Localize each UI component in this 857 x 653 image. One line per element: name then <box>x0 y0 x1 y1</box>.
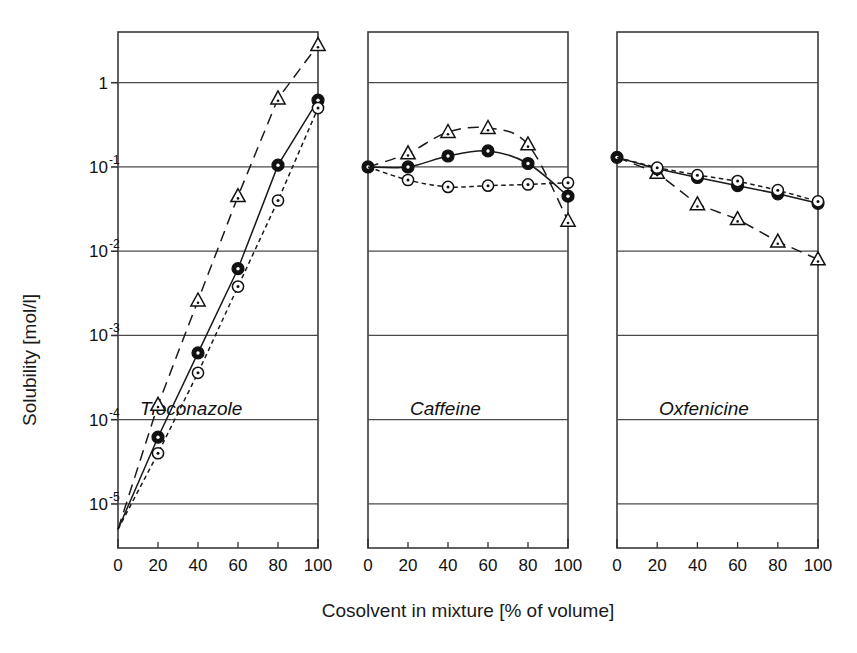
datapoint-marker <box>812 196 823 207</box>
series-series-filled-circle-caffeine <box>362 145 574 202</box>
ytick-label-mantissa: 10 <box>89 158 108 177</box>
datapoint-marker <box>152 448 163 459</box>
xtick-label-60: 60 <box>728 556 747 575</box>
datapoint-marker <box>811 252 825 265</box>
series-line-series-triangle <box>118 45 318 529</box>
series-line-series-filled-circle <box>368 151 568 197</box>
datapoint-marker <box>652 162 663 173</box>
datapoint-marker <box>482 145 494 157</box>
datapoint-marker <box>522 157 534 169</box>
circle-center-dot-icon <box>316 99 319 102</box>
datapoint-marker <box>152 431 164 443</box>
datapoint-marker <box>272 159 284 171</box>
circle-center-dot-icon <box>817 200 820 203</box>
series-series-triangle-tioconazole <box>118 38 325 530</box>
series-line-series-triangle <box>368 127 568 221</box>
datapoint-marker <box>611 151 623 163</box>
panel-frame <box>617 32 818 548</box>
datapoint-marker <box>442 150 454 162</box>
triangle-center-dot-icon <box>407 154 410 157</box>
triangle-center-dot-icon <box>237 197 240 200</box>
xtick-label-80: 80 <box>768 556 787 575</box>
xtick-label-20: 20 <box>648 556 667 575</box>
datapoint-marker <box>191 293 205 306</box>
panel-caffeine: 020406080100Caffeine <box>362 32 582 575</box>
datapoint-marker <box>772 185 783 196</box>
series-series-open-circle-caffeine <box>368 167 574 192</box>
circle-center-dot-icon <box>447 185 450 188</box>
datapoint-marker <box>771 234 785 247</box>
circle-center-dot-icon <box>237 285 240 288</box>
datapoint-marker <box>271 91 285 104</box>
panel-label-oxfenicine: Oxfenicine <box>659 398 749 419</box>
datapoint-marker <box>562 177 573 188</box>
xtick-label-0: 0 <box>363 556 372 575</box>
datapoint-marker <box>402 174 413 185</box>
xtick-label-60: 60 <box>229 556 248 575</box>
xtick-label-60: 60 <box>479 556 498 575</box>
triangle-center-dot-icon <box>157 406 160 409</box>
panel-oxfenicine: 020406080100Oxfenicine <box>611 32 832 575</box>
datapoint-marker <box>311 38 325 51</box>
ytick-label-exponent: -2 <box>109 237 120 251</box>
ytick-label-mantissa: 10 <box>89 411 108 430</box>
circle-center-dot-icon <box>156 435 159 438</box>
circle-center-dot-icon <box>526 162 529 165</box>
circle-center-dot-icon <box>566 194 569 197</box>
triangle-center-dot-icon <box>696 205 699 208</box>
datapoint-marker <box>562 190 574 202</box>
triangle-center-dot-icon <box>487 129 490 132</box>
triangle-center-dot-icon <box>736 220 739 223</box>
datapoint-marker <box>272 195 283 206</box>
datapoint-marker <box>192 367 203 378</box>
chart-canvas: 020406080100Tioconazole020406080100Caffe… <box>0 0 857 653</box>
datapoint-marker <box>402 161 414 173</box>
solubility-cosolvent-figure: 020406080100Tioconazole020406080100Caffe… <box>0 0 857 653</box>
circle-center-dot-icon <box>196 351 199 354</box>
ytick-label-exponent: -4 <box>109 406 120 420</box>
xtick-label-80: 80 <box>269 556 288 575</box>
circle-center-dot-icon <box>277 199 280 202</box>
datapoint-marker <box>231 189 245 202</box>
ytick-label-mantissa: 1 <box>99 74 108 93</box>
xtick-label-0: 0 <box>612 556 621 575</box>
x-axis-title: Cosolvent in mixture [% of volume] <box>322 600 615 621</box>
circle-center-dot-icon <box>567 181 570 184</box>
series-line-series-open-circle <box>118 108 318 529</box>
ytick-label-exponent: -1 <box>109 153 120 167</box>
circle-center-dot-icon <box>527 183 530 186</box>
series-series-triangle-caffeine <box>368 121 575 227</box>
panel-tioconazole: 020406080100Tioconazole <box>113 32 332 575</box>
datapoint-marker <box>482 180 493 191</box>
xtick-label-100: 100 <box>554 556 582 575</box>
datapoint-marker <box>401 146 415 159</box>
datapoint-marker <box>232 263 244 275</box>
circle-center-dot-icon <box>317 107 320 110</box>
datapoint-marker <box>232 281 243 292</box>
circle-center-dot-icon <box>487 184 490 187</box>
xtick-label-0: 0 <box>113 556 122 575</box>
circle-center-dot-icon <box>736 180 739 183</box>
datapoint-marker <box>481 121 495 134</box>
panel-frame <box>368 32 568 548</box>
series-series-filled-circle-oxfenicine <box>611 151 824 209</box>
circle-center-dot-icon <box>446 154 449 157</box>
datapoint-marker <box>192 347 204 359</box>
triangle-center-dot-icon <box>197 301 200 304</box>
datapoint-marker <box>732 175 743 186</box>
xtick-label-20: 20 <box>149 556 168 575</box>
series-line-series-filled-circle <box>118 100 318 529</box>
series-line-series-open-circle <box>617 157 818 201</box>
xtick-label-20: 20 <box>399 556 418 575</box>
ytick-label-exponent: -5 <box>109 490 120 504</box>
ytick-label-mantissa: 10 <box>89 242 108 261</box>
series-line-series-filled-circle <box>617 157 818 203</box>
series-series-filled-circle-tioconazole <box>118 94 324 529</box>
circle-center-dot-icon <box>696 174 699 177</box>
circle-center-dot-icon <box>656 166 659 169</box>
triangle-center-dot-icon <box>527 145 530 148</box>
circle-center-dot-icon <box>776 189 779 192</box>
ytick-label-mantissa: 10 <box>89 495 108 514</box>
circle-center-dot-icon <box>486 149 489 152</box>
circle-center-dot-icon <box>276 163 279 166</box>
